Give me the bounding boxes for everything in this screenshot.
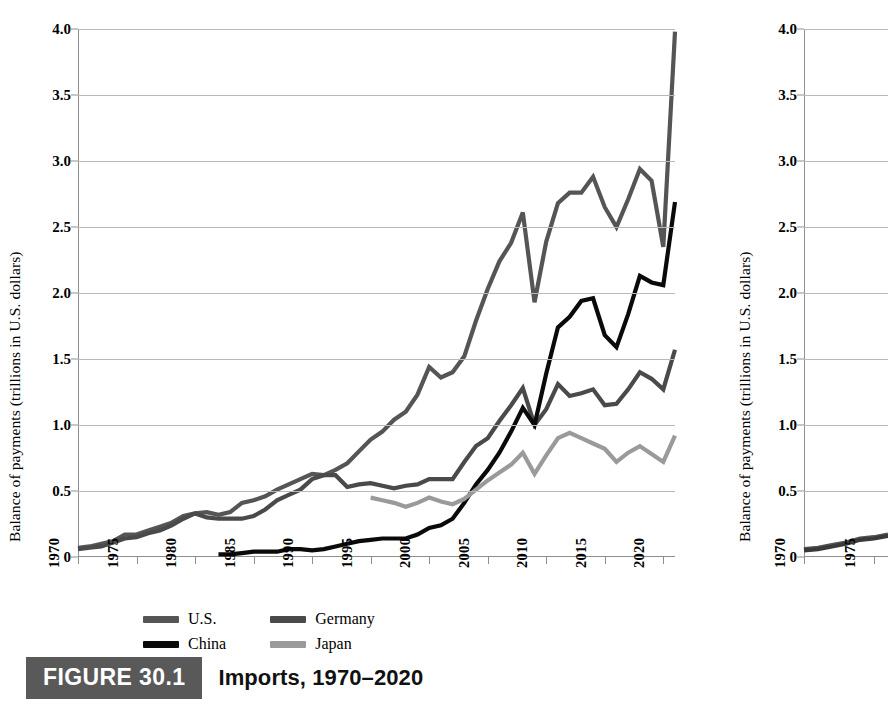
gridline <box>804 29 888 30</box>
x-tick-mark <box>546 557 547 564</box>
legend-label: China <box>188 635 226 653</box>
y-tick-label: 0.5 <box>52 483 71 500</box>
plot-area: 00.51.01.52.02.53.03.54.0197019751980198… <box>78 29 675 557</box>
y-tick-label: 2.5 <box>778 219 797 236</box>
x-tick-label: 1975 <box>104 538 121 568</box>
y-tick-label: 3.5 <box>778 87 797 104</box>
x-tick-label: 2005 <box>455 538 472 568</box>
y-tick-label: 2.0 <box>52 285 71 302</box>
gridline <box>78 95 675 96</box>
y-tick-mark <box>71 491 78 492</box>
y-tick-mark <box>797 359 804 360</box>
y-tick-mark <box>797 425 804 426</box>
gridline <box>78 227 675 228</box>
figure-title: Imports, 1970–2020 <box>218 665 423 691</box>
gridline <box>78 29 675 30</box>
y-tick-label: 4.0 <box>778 21 797 38</box>
y-axis-label: Balance of payments (trillions in U.S. d… <box>6 72 24 542</box>
legend-label: Germany <box>315 610 375 628</box>
y-tick-mark <box>71 227 78 228</box>
legend-item-u-s[interactable]: U.S. <box>143 610 226 628</box>
y-tick-mark <box>71 425 78 426</box>
x-tick-label: 2000 <box>397 538 414 568</box>
legend-item-germany[interactable]: Germany <box>270 610 375 628</box>
x-tick-label: 1980 <box>163 538 180 568</box>
x-tick-mark <box>804 557 805 564</box>
gridline <box>78 161 675 162</box>
y-tick-mark <box>71 359 78 360</box>
y-tick-label: 1.5 <box>52 351 71 368</box>
x-tick-label: 1985 <box>221 538 238 568</box>
y-tick-mark <box>71 293 78 294</box>
y-tick-mark <box>71 557 78 558</box>
plot-area-second: 00.51.01.52.02.53.03.54.019701975 <box>804 29 888 557</box>
gridline <box>78 359 675 360</box>
legend-swatch-icon <box>143 641 179 648</box>
gridline <box>78 491 675 492</box>
y-tick-label: 1.0 <box>52 417 71 434</box>
x-tick-mark <box>312 557 313 564</box>
y-tick-mark <box>797 29 804 30</box>
gridline <box>804 425 888 426</box>
x-tick-mark <box>254 557 255 564</box>
x-tick-label: 1995 <box>338 538 355 568</box>
y-tick-mark <box>797 227 804 228</box>
series-line-u-s <box>78 32 675 548</box>
legend-swatch-icon <box>270 641 306 648</box>
x-tick-mark <box>371 557 372 564</box>
y-tick-label: 4.0 <box>52 21 71 38</box>
gridline <box>804 161 888 162</box>
x-tick-label: 2010 <box>514 538 531 568</box>
figure-pair: Balance of payments (trillions in U.S. d… <box>0 0 888 705</box>
gridline <box>804 227 888 228</box>
y-tick-label: 3.5 <box>52 87 71 104</box>
gridline <box>804 359 888 360</box>
y-tick-mark <box>797 557 804 558</box>
x-tick-mark <box>874 557 875 564</box>
legend-item-japan[interactable]: Japan <box>270 635 375 653</box>
gridline <box>804 293 888 294</box>
x-tick-label: 1990 <box>280 538 297 568</box>
y-tick-mark <box>797 491 804 492</box>
legend-item-china[interactable]: China <box>143 635 226 653</box>
figure-number-badge: FIGURE 30.1 <box>26 657 202 699</box>
y-tick-label: 2.0 <box>778 285 797 302</box>
y-tick-mark <box>71 161 78 162</box>
x-tick-label: 2015 <box>572 538 589 568</box>
x-tick-label: 1975 <box>842 538 859 568</box>
legend-swatch-icon <box>143 616 179 623</box>
y-tick-mark <box>797 293 804 294</box>
y-tick-label: 0 <box>790 549 798 566</box>
series-line-germany <box>78 350 675 549</box>
gridline <box>804 491 888 492</box>
y-tick-mark <box>797 161 804 162</box>
y-tick-mark <box>71 29 78 30</box>
y-axis-label-second: Balance of payments (trillions in U.S. d… <box>736 72 754 542</box>
legend-label: Japan <box>315 635 351 653</box>
y-tick-label: 0.5 <box>778 483 797 500</box>
legend-label: U.S. <box>188 610 216 628</box>
y-tick-label: 1.0 <box>778 417 797 434</box>
legend-swatch-icon <box>270 616 306 623</box>
y-tick-label: 2.5 <box>52 219 71 236</box>
x-tick-mark <box>78 557 79 564</box>
x-tick-mark <box>429 557 430 564</box>
x-tick-mark <box>663 557 664 564</box>
chart-panel-second-cropped: Balance of payments (trillions in U.S. d… <box>700 0 888 705</box>
x-tick-label: 2020 <box>631 538 648 568</box>
y-tick-mark <box>797 95 804 96</box>
y-tick-mark <box>71 95 78 96</box>
x-tick-label: 1970 <box>772 538 789 568</box>
chart-legend: U.S.GermanyChinaJapan <box>143 610 375 653</box>
x-tick-mark <box>488 557 489 564</box>
x-tick-mark <box>605 557 606 564</box>
gridline <box>78 425 675 426</box>
gridline <box>78 293 675 294</box>
y-tick-label: 0 <box>64 549 72 566</box>
figure-caption: FIGURE 30.1 Imports, 1970–2020 <box>26 657 423 699</box>
y-tick-label: 3.0 <box>52 153 71 170</box>
chart-panel-imports: Balance of payments (trillions in U.S. d… <box>0 0 700 705</box>
x-tick-mark <box>195 557 196 564</box>
y-tick-label: 3.0 <box>778 153 797 170</box>
gridline <box>804 95 888 96</box>
